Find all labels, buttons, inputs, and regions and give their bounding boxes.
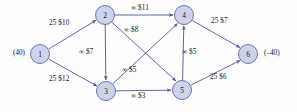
supply-label-node-1: (40) bbox=[13, 50, 25, 57]
node-6-label: 6 bbox=[246, 50, 250, 59]
node-4-label: 4 bbox=[182, 11, 186, 20]
edge-label-2-4: ∞ $11 bbox=[131, 5, 149, 12]
node-4[interactable]: 4 bbox=[175, 6, 194, 25]
node-3[interactable]: 3 bbox=[97, 82, 116, 101]
edge-label-2-3: ∞ $7 bbox=[79, 49, 94, 56]
edge-label-1-2: 25 $10 bbox=[49, 20, 69, 27]
node-2[interactable]: 2 bbox=[96, 6, 115, 25]
edge-label-3-5: ∞ $3 bbox=[131, 93, 146, 100]
edge-label-4-6: 25 $7 bbox=[211, 18, 228, 25]
edge-3-4 bbox=[113, 24, 178, 85]
node-1-label: 1 bbox=[38, 50, 42, 59]
node-5[interactable]: 5 bbox=[173, 81, 192, 100]
node-6[interactable]: 6 bbox=[239, 45, 258, 64]
node-2-label: 2 bbox=[103, 11, 107, 20]
edge-label-5-6: 25 $6 bbox=[210, 74, 227, 81]
edge-label-1-3: 25 $12 bbox=[49, 76, 69, 83]
edge-2-3 bbox=[105, 25, 106, 81]
edge-label-2-5: ∞ $8 bbox=[124, 27, 139, 34]
network-graph-canvas: 1 2 3 4 5 6 bbox=[0, 0, 297, 112]
edge-3-5 bbox=[116, 90, 172, 91]
demand-label-node-6: (–40) bbox=[264, 50, 280, 57]
edge-label-5-4: ∞ $5 bbox=[182, 49, 197, 56]
node-1[interactable]: 1 bbox=[31, 45, 50, 64]
node-3-label: 3 bbox=[104, 87, 108, 96]
node-5-label: 5 bbox=[180, 86, 184, 95]
network-flow-diagram: 1 2 3 4 5 6 (40) (–40) bbox=[0, 0, 297, 112]
edge-label-3-4: ∞ $5 bbox=[122, 67, 137, 74]
